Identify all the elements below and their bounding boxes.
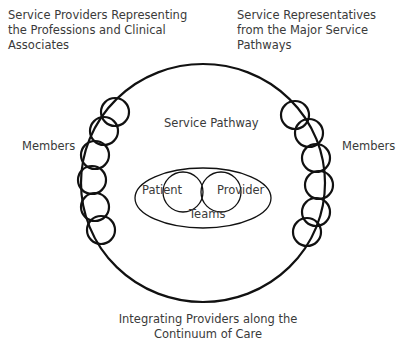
patient-label: Patient bbox=[142, 183, 182, 198]
bottom-label: Integrating Providers along the Continuu… bbox=[118, 312, 298, 342]
members-right-label: Members bbox=[342, 139, 395, 154]
teams-label: Teams bbox=[189, 207, 225, 222]
provider-label: Provider bbox=[217, 183, 264, 198]
right-member-circles bbox=[281, 101, 333, 246]
service-pathway-label: Service Pathway bbox=[164, 116, 259, 131]
top-left-label: Service Providers Representing the Profe… bbox=[8, 8, 187, 53]
members-left-label: Members bbox=[22, 139, 75, 154]
top-right-label: Service Representatives from the Major S… bbox=[237, 8, 376, 53]
left-member-circles bbox=[78, 98, 129, 244]
